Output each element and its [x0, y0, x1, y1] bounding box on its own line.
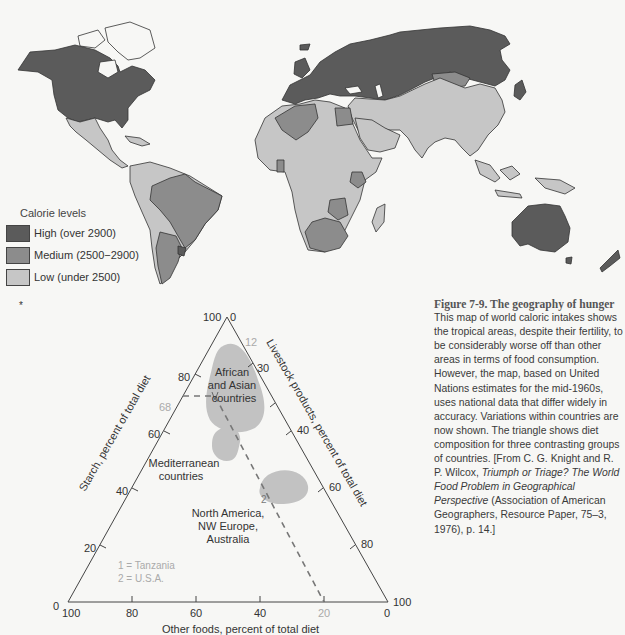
starch-corner-0: 0: [53, 600, 59, 612]
starch-tick-80: 80: [178, 371, 190, 383]
other-tick-20: 20: [318, 607, 330, 619]
caption-body: This map of world caloric intakes shows …: [434, 311, 624, 537]
legend-title: Calorie levels: [20, 207, 206, 219]
australia: [512, 204, 570, 252]
region-mediterranean: [212, 426, 240, 461]
greenland: [105, 22, 155, 60]
starch-tanzania-68: 68: [159, 401, 171, 413]
key-tanzania: 1 = Tanzania: [118, 560, 175, 571]
medium-swatch: [6, 247, 30, 264]
livestock-tick-100: 100: [393, 596, 411, 608]
key-usa: 2 = U.S.A.: [118, 573, 164, 584]
point-2-label: 2: [261, 494, 267, 505]
egypt: [335, 108, 353, 126]
arctic-islands: [78, 30, 105, 48]
legend-item-low: Low (under 2500): [6, 267, 206, 287]
livestock-tick-80: 80: [361, 538, 373, 550]
label-african-2: and Asian: [208, 379, 256, 391]
caption-heading: Figure 7-9. The geography of hunger: [434, 297, 624, 311]
starch-tick-40: 40: [116, 485, 128, 497]
label-med-2: countries: [159, 470, 204, 482]
other-tick-80: 80: [126, 607, 138, 619]
region-north-america-europe: [259, 470, 308, 504]
british-isles: [294, 58, 310, 78]
bottom-axis-ticks: [132, 596, 324, 602]
other-tick-100: 100: [62, 607, 80, 619]
livestock-tick-60: 60: [329, 481, 341, 493]
livestock-tick-30: 30: [257, 362, 269, 374]
map-legend: Calorie levels High (over 2900) Medium (…: [6, 207, 206, 289]
label-na-2: NW Europe,: [198, 520, 258, 532]
label-na-1: North America,: [192, 507, 265, 519]
japan: [514, 80, 526, 100]
apex-right-label: 0: [230, 311, 236, 323]
other-tick-0: 0: [384, 607, 390, 619]
legend-item-medium: Medium (2500−2900): [6, 245, 206, 265]
high-swatch: [6, 225, 30, 242]
label-med-1: Mediterranean: [149, 457, 220, 469]
label-na-3: Australia: [207, 533, 251, 545]
label-african-3: countries: [212, 392, 257, 404]
label-african-1: African: [215, 366, 249, 378]
low-swatch: [6, 269, 30, 286]
other-tick-60: 60: [190, 607, 202, 619]
central-america: [66, 118, 128, 168]
livestock-tanzania-12: 12: [245, 336, 257, 348]
legend-item-high: High (over 2900): [6, 223, 206, 243]
livestock-tick-40: 40: [297, 424, 309, 436]
other-foods-axis-title: Other foods, percent of total diet: [162, 623, 319, 635]
madagascar: [372, 204, 385, 232]
ternary-diet-chart: 100 0 20 40 60 80 68 0 12 30 40 60 80 10…: [0, 290, 430, 635]
new-zealand: [600, 250, 620, 272]
figure-caption: Figure 7-9. The geography of hunger This…: [434, 297, 624, 537]
apex-left-label: 100: [203, 311, 221, 323]
starch-axis-title: Starch, percent of total diet: [76, 373, 152, 493]
other-tick-40: 40: [254, 607, 266, 619]
starch-tick-60: 60: [148, 428, 160, 440]
starch-tick-20: 20: [84, 542, 96, 554]
